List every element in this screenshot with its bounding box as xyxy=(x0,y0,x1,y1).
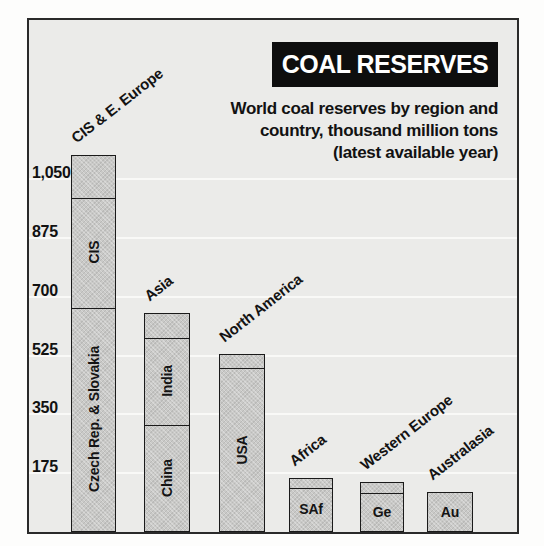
bar-segment xyxy=(361,483,403,493)
y-tick-label: 875 xyxy=(32,223,76,239)
page: 1753505257008751,050Czech Rep. & Slovaki… xyxy=(0,0,544,546)
segment-label-cis: CIS xyxy=(86,241,102,264)
chart-title-box: COAL RESERVES xyxy=(272,42,498,87)
segment-label-au: Au xyxy=(441,504,459,520)
region-label-cis-e-europe: CIS & E. Europe xyxy=(68,65,167,148)
bar-segment xyxy=(220,355,264,368)
y-tick-label: 700 xyxy=(32,282,76,298)
chart-title: COAL RESERVES xyxy=(282,50,489,79)
region-label-asia: Asia xyxy=(141,272,176,305)
region-label-africa: Africa xyxy=(286,431,330,471)
chart-subtitle: World coal reserves by region and countr… xyxy=(230,98,498,164)
segment-label-india: India xyxy=(159,365,175,397)
segment-label-ge: Ge xyxy=(373,504,391,520)
segment-label-china: China xyxy=(159,459,175,497)
region-label-north-america: North America xyxy=(216,270,306,346)
y-tick-label: 175 xyxy=(32,458,76,474)
subtitle-line-2: country, thousand million tons xyxy=(230,120,498,142)
chart-frame: 1753505257008751,050Czech Rep. & Slovaki… xyxy=(27,18,519,534)
region-label-australasia: Australasia xyxy=(424,421,497,484)
segment-label-saf: SAf xyxy=(299,501,323,517)
bar-asia xyxy=(144,313,190,532)
y-tick-label: 1,050 xyxy=(32,164,76,180)
subtitle-line-1: World coal reserves by region and xyxy=(230,98,498,120)
y-tick-label: 350 xyxy=(32,399,76,415)
bar-segment xyxy=(72,156,115,198)
plot-area: 1753505257008751,050Czech Rep. & Slovaki… xyxy=(29,20,517,532)
bar-segment xyxy=(290,479,332,487)
bar-segment xyxy=(145,314,189,338)
y-tick-label: 525 xyxy=(32,341,76,357)
segment-label-czech-rep-slovakia: Czech Rep. & Slovakia xyxy=(86,346,102,492)
segment-label-usa: USA xyxy=(234,435,250,464)
subtitle-line-3: (latest available year) xyxy=(230,142,498,164)
